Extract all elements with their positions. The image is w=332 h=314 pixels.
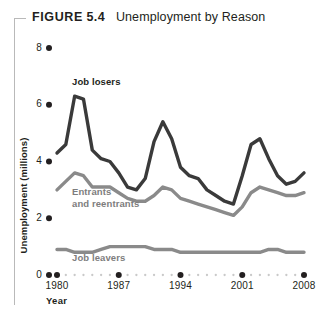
x-tick-label: 1987: [99, 280, 139, 291]
y-axis-title: Unemployment (millions): [18, 126, 29, 266]
x-tick-label: 1994: [161, 280, 201, 291]
x-tick-label: 2008: [284, 280, 324, 291]
series-annotation-job-leavers: Job leavers: [72, 252, 125, 264]
x-axis-title: Year: [46, 295, 67, 306]
y-tick-label: 2: [28, 212, 42, 223]
series-annotation-entrants-and-reentrants: Entrants and reentrants: [72, 186, 139, 209]
x-axis-dotted-baseline: [46, 272, 307, 278]
y-tick-label: 8: [28, 42, 42, 53]
x-tick-label: 1980: [37, 280, 77, 291]
figure-container: FIGURE 5.4 Unemployment by Reason Unempl…: [0, 0, 332, 314]
y-tick-label: 6: [28, 98, 42, 109]
chart-plot-area: [0, 0, 332, 314]
y-tick-label: 0: [28, 269, 42, 280]
y-tick-label: 4: [28, 155, 42, 166]
series-annotation-job-losers: Job losers: [72, 76, 121, 88]
chart-svg: [0, 0, 332, 314]
x-tick-label: 2001: [222, 280, 262, 291]
y-axis-tick-dots: [46, 45, 52, 221]
